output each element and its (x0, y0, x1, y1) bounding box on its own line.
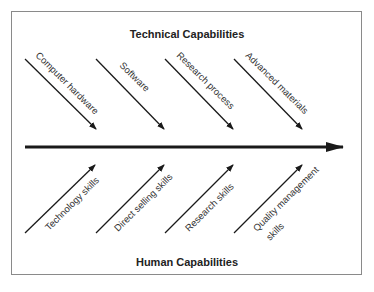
branch-label: Technology skills (43, 174, 102, 232)
top-branch: Computer hardware (25, 50, 101, 129)
branch-label: Research process (175, 50, 237, 112)
branch-label: Software (118, 60, 152, 94)
bottom-branch: Quality management skills (234, 164, 321, 243)
branch-label: Computer hardware (34, 50, 102, 117)
bottom-branch: Direct selling skills (96, 165, 175, 233)
bottom-branch: Technology skills (25, 165, 101, 233)
branch-label-line1: Quality management (251, 164, 321, 234)
top-branch: Advanced materials (234, 50, 311, 129)
fishbone-diagram: Computer hardware Software Research proc… (0, 0, 374, 292)
branch-label: Advanced materials (244, 50, 311, 117)
branch-label: Direct selling skills (112, 171, 175, 233)
top-branch: Research process (165, 50, 237, 129)
top-branch: Software (96, 59, 164, 129)
bottom-branch: Research skills (165, 165, 236, 233)
